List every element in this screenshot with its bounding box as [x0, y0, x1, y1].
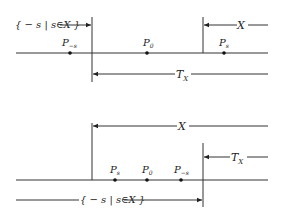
- top-tx-label: TX: [176, 68, 189, 83]
- point-label: P0: [141, 164, 153, 176]
- top-diagram: { − s | s∈X } X TX P−s P0 Ps: [15, 17, 268, 83]
- bottom-diagram: X TX Ps P0 P−s { − s | s∈X }: [16, 120, 268, 207]
- point-p0: [145, 178, 149, 182]
- top-x-label: X: [236, 19, 246, 32]
- point-p-neg-s: [68, 51, 72, 55]
- bottom-tx-label: TX: [231, 151, 244, 166]
- point-label: Ps: [109, 164, 120, 176]
- point-p-neg-s: [179, 178, 183, 182]
- point-label: P−s: [61, 37, 77, 49]
- point-label: P0: [142, 37, 154, 49]
- translation-diagram: { − s | s∈X } X TX P−s P0 Ps X TX Ps: [0, 0, 282, 217]
- point-label: Ps: [218, 37, 229, 49]
- point-p0: [145, 51, 149, 55]
- bottom-x-label: X: [177, 120, 187, 133]
- point-ps: [113, 178, 117, 182]
- point-ps: [222, 51, 226, 55]
- point-label: P−s: [173, 164, 189, 176]
